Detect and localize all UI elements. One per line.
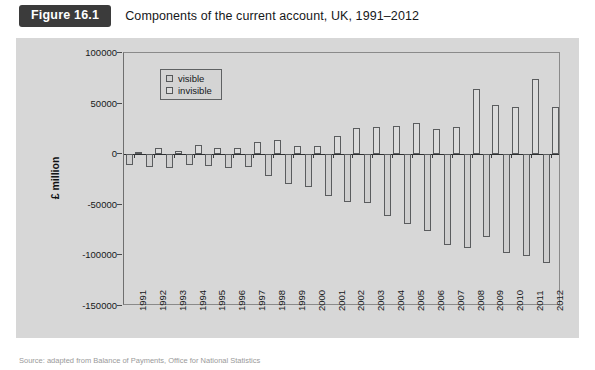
bar-visible xyxy=(523,154,530,256)
y-axis-tick-label: -100000 xyxy=(82,249,117,260)
y-axis-tick-label: 50000 xyxy=(91,97,117,108)
x-axis-tick-label: 1998 xyxy=(276,290,287,311)
y-axis-tick-mark xyxy=(117,254,122,255)
y-axis-tick-label: -50000 xyxy=(87,198,117,209)
x-axis-tick-label: 2010 xyxy=(514,290,525,311)
x-axis-tick-mark xyxy=(213,154,214,158)
bar-invisible xyxy=(552,107,559,154)
bar-visible xyxy=(344,154,351,202)
bar-invisible xyxy=(492,105,499,154)
x-axis-tick-mark xyxy=(154,154,155,158)
bar-visible xyxy=(404,154,411,223)
bar-visible xyxy=(126,154,133,164)
legend-item-invisible[interactable]: invisible xyxy=(166,86,212,96)
x-axis-tick-label: 2004 xyxy=(395,290,406,311)
bar-visible xyxy=(543,154,550,263)
bar-invisible xyxy=(532,79,539,154)
x-axis-tick-mark xyxy=(313,154,314,158)
bar-visible xyxy=(166,154,173,168)
x-axis-tick-mark xyxy=(551,154,552,158)
y-axis-tick-label: -150000 xyxy=(82,300,117,311)
x-axis-tick-label: 2012 xyxy=(554,290,565,311)
chart-legend: visible invisible xyxy=(160,69,222,100)
bar-invisible xyxy=(512,107,519,154)
bar-invisible xyxy=(135,152,142,154)
x-axis-tick-label: 2001 xyxy=(336,290,347,311)
bar-visible xyxy=(225,154,232,168)
bar-invisible xyxy=(473,89,480,154)
x-axis-tick-mark xyxy=(432,154,433,158)
bar-visible xyxy=(325,154,332,195)
y-axis-tick-labels: 100000500000-50000-100000-150000 xyxy=(16,38,117,338)
bar-visible xyxy=(424,154,431,231)
bar-invisible xyxy=(353,128,360,154)
bar-invisible xyxy=(373,127,380,154)
bar-visible xyxy=(364,154,371,203)
y-axis-tick-label: 100000 xyxy=(85,47,117,58)
x-axis-tick-label: 1997 xyxy=(256,290,267,311)
bar-visible xyxy=(444,154,451,245)
x-axis-tick-mark xyxy=(194,154,195,158)
x-axis-tick-label: 1992 xyxy=(157,290,168,311)
x-axis-tick-mark xyxy=(412,154,413,158)
x-axis-tick-label: 2000 xyxy=(316,290,327,311)
figure-number-badge: Figure 16.1 xyxy=(19,5,111,27)
bar-visible xyxy=(245,154,252,166)
x-axis-tick-label: 2007 xyxy=(455,290,466,311)
chart-panel: £ million 100000500000-50000-100000-1500… xyxy=(16,38,579,338)
bar-invisible xyxy=(234,148,241,154)
bar-invisible xyxy=(413,123,420,154)
x-axis-tick-label: 2008 xyxy=(475,290,486,311)
plot-area: visible invisible xyxy=(123,52,560,305)
x-axis-tick-mark xyxy=(253,154,254,158)
bar-invisible xyxy=(294,146,301,154)
bar-invisible xyxy=(314,146,321,155)
x-axis-tick-mark xyxy=(392,154,393,158)
x-axis-tick-mark xyxy=(233,154,234,158)
bar-visible xyxy=(285,154,292,183)
x-axis-tick-mark xyxy=(531,154,532,158)
x-axis-tick-label: 1994 xyxy=(197,290,208,311)
legend-label: visible xyxy=(178,74,204,84)
bar-visible xyxy=(384,154,391,215)
bar-invisible xyxy=(274,140,281,155)
legend-label: invisible xyxy=(178,86,212,96)
x-axis-tick-mark xyxy=(333,154,334,158)
x-axis-tick-label: 1991 xyxy=(137,290,148,311)
x-axis-tick-mark xyxy=(293,154,294,158)
x-axis-tick-mark xyxy=(134,154,135,158)
bar-visible xyxy=(186,154,193,165)
x-axis-tick-mark xyxy=(491,154,492,158)
x-axis-tick-mark xyxy=(372,154,373,158)
bar-visible xyxy=(464,154,471,248)
figure-header: Figure 16.1 Components of the current ac… xyxy=(0,0,595,32)
legend-swatch-icon xyxy=(166,75,173,82)
y-axis-tick-mark xyxy=(117,52,122,53)
x-axis-tick-label: 1999 xyxy=(296,290,307,311)
bar-invisible xyxy=(334,136,341,154)
x-axis-tick-label: 2006 xyxy=(435,290,446,311)
bar-invisible xyxy=(254,142,261,154)
legend-item-visible[interactable]: visible xyxy=(166,74,212,84)
x-axis-tick-mark xyxy=(352,154,353,158)
bar-visible xyxy=(265,154,272,176)
y-axis-tick-mark xyxy=(117,153,122,154)
bar-invisible xyxy=(155,148,162,154)
x-axis-tick-mark xyxy=(511,154,512,158)
bar-invisible xyxy=(195,145,202,154)
bar-invisible xyxy=(453,127,460,155)
x-axis-tick-label: 2005 xyxy=(415,290,426,311)
x-axis-tick-mark xyxy=(472,154,473,158)
bar-visible xyxy=(483,154,490,237)
y-axis-tick-mark xyxy=(117,305,122,306)
x-axis-tick-mark xyxy=(174,154,175,158)
bar-invisible xyxy=(214,148,221,154)
x-axis-tick-label: 2002 xyxy=(355,290,366,311)
x-axis-tick-label: 2003 xyxy=(375,290,386,311)
x-axis-tick-label: 2011 xyxy=(534,291,545,311)
legend-swatch-icon xyxy=(166,87,173,94)
y-axis-tick-mark xyxy=(117,204,122,205)
x-axis-tick-mark xyxy=(273,154,274,158)
bar-invisible xyxy=(433,129,440,154)
y-axis-tick-mark xyxy=(117,103,122,104)
